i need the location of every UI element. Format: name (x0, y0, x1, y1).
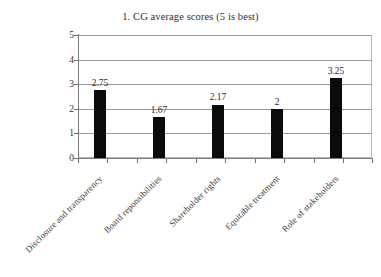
bar-shareholder-rights (212, 105, 224, 158)
x-axis-label-disclosure-and-transparency: Disclosure and transparency (0, 173, 105, 277)
bar-disclosure-and-transparency (94, 90, 106, 158)
x-tick-mark-10 (372, 159, 373, 163)
bar-role-of-stakeholders (330, 78, 342, 158)
x-tick-mark-3 (166, 159, 167, 163)
x-tick-mark-5 (225, 159, 226, 163)
x-tick-mark-1 (107, 159, 108, 163)
bar-board-reponsibilities (153, 117, 165, 158)
gridline-4 (78, 60, 372, 61)
x-tick-mark-6 (255, 159, 256, 163)
y-tick-label-3: 3 (52, 80, 74, 90)
y-tick-label-2: 2 (52, 105, 74, 115)
y-tick-label-5: 5 (52, 31, 74, 41)
y-tick-label-1: 1 (52, 129, 74, 139)
bar-equitable-treatment (271, 109, 283, 158)
y-tick-label-0: 0 (52, 154, 74, 164)
bar-chart-figure: 1. CG average scores (5 is best) 5 4 3 2… (0, 0, 381, 277)
gridline-1 (78, 133, 372, 134)
gridline-3 (78, 84, 372, 85)
y-tick-label-4: 4 (52, 56, 74, 66)
x-tick-mark-2 (137, 159, 138, 163)
bar-value-role-of-stakeholders: 3.25 (316, 67, 356, 77)
plot-area: 2.75 1.67 2.17 2 3.25 (78, 35, 372, 158)
chart-title: 1. CG average scores (5 is best) (0, 11, 381, 22)
x-tick-mark-9 (343, 159, 344, 163)
gridline-2 (78, 109, 372, 110)
x-tick-mark-4 (196, 159, 197, 163)
bar-value-equitable-treatment: 2 (257, 98, 297, 108)
bar-value-board-reponsibilities: 1.67 (139, 106, 179, 116)
gridline-5 (78, 35, 372, 36)
bar-value-shareholder-rights: 2.17 (198, 93, 238, 103)
x-tick-mark-0 (78, 159, 79, 163)
y-axis-line (78, 34, 79, 159)
x-tick-mark-7 (284, 159, 285, 163)
x-tick-mark-8 (314, 159, 315, 163)
bar-value-disclosure-and-transparency: 2.75 (80, 79, 120, 89)
y-axis-tick-labels: 5 4 3 2 1 0 (50, 35, 74, 158)
